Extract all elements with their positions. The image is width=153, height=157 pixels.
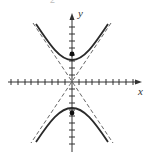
y-axis-arrow-icon [70, 13, 75, 20]
hyperbola-diagram: y x [0, 0, 153, 157]
lower-focus-point [70, 111, 75, 116]
y-axis-label: y [77, 7, 83, 19]
x-axis [8, 79, 142, 85]
x-axis-arrow-icon [135, 80, 142, 85]
x-axis-label: x [137, 85, 143, 97]
upper-focus-point [70, 52, 75, 57]
